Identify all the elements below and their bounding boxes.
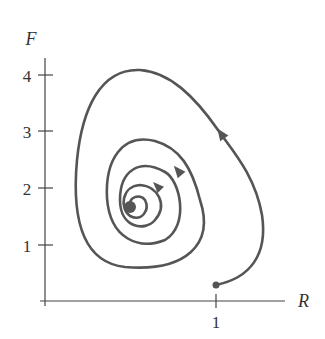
arrow-icon	[150, 179, 164, 193]
x-tick-label-1: 1	[212, 313, 221, 332]
equilibrium-point	[124, 201, 136, 213]
direction-arrows	[150, 126, 229, 193]
y-tick-label-4: 4	[23, 67, 32, 86]
y-tick-label-2: 2	[23, 180, 32, 199]
x-axis-label: R	[297, 291, 309, 311]
phase-plane-chart: F R 4 3 2 1 1	[0, 0, 325, 339]
trajectory	[76, 70, 263, 285]
y-tick-label-3: 3	[23, 123, 32, 142]
y-axis-label: F	[25, 29, 38, 49]
arrow-icon	[170, 163, 185, 179]
y-tick-label-1: 1	[23, 237, 32, 256]
start-point	[213, 282, 220, 289]
